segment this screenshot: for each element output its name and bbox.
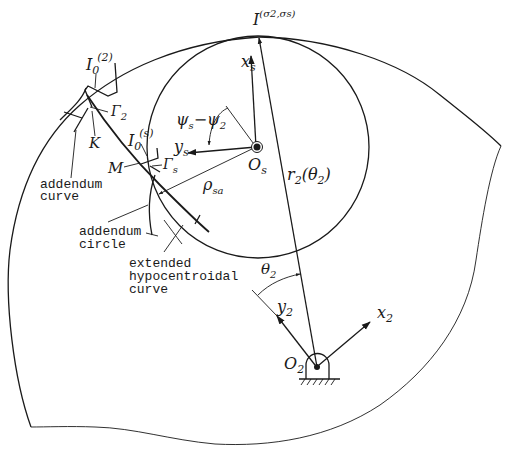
label-r2-theta2: r2(θ2) — [287, 165, 331, 187]
label-theta2: θ2 — [261, 260, 276, 280]
label-x2: x2 — [377, 303, 393, 325]
leader-addendum-circle — [108, 205, 148, 222]
label-psi-difference: ψs−ψ2 — [176, 110, 226, 131]
O2-ground-support — [299, 354, 340, 385]
annotation-addendum-circle: addendum circle — [79, 224, 149, 252]
label-instant-center: I(σ2,σs) — [252, 8, 296, 29]
leader-M — [124, 163, 140, 167]
label-M: M — [107, 159, 124, 177]
label-y2: y2 — [276, 297, 293, 319]
addendum-circle-arc — [149, 175, 155, 235]
label-gamma-s: Γs — [162, 156, 178, 175]
outer-right-edge — [215, 146, 501, 445]
gammas-tick — [150, 166, 160, 172]
leader-gammas — [152, 165, 162, 166]
label-i0-2: I0(2) — [85, 51, 113, 77]
annotation-addendum-curve: addendum curve — [40, 177, 110, 204]
label-i0-s: I0(s) — [127, 127, 154, 153]
label-xs: xs — [241, 52, 256, 74]
psi-reference-line — [226, 106, 256, 147]
label-Os: Os — [248, 155, 267, 177]
label-ys: ys — [173, 137, 189, 159]
label-gamma-2: Γ2 — [110, 103, 127, 122]
addendum-circle-arc-2 — [164, 220, 182, 244]
leader-K — [92, 111, 95, 136]
label-rho-sa: ρsa — [202, 175, 224, 196]
leader-addendum-curve — [71, 130, 76, 178]
leader-i0s — [141, 144, 147, 156]
outer-top-right-arc — [259, 37, 501, 146]
diagram-canvas: I(σ2,σs) I0(2) Γ2 K I0(s) M Γs xs ψs−ψ2 … — [0, 0, 511, 452]
addendum-curve-tick-2 — [74, 108, 88, 132]
label-O2: O2 — [284, 354, 304, 376]
leader-hypocentroidal — [164, 225, 183, 252]
annotation-hypocentroidal-curve: extended hypocentroidal curve — [129, 256, 246, 297]
label-K: K — [88, 134, 101, 152]
theta2-reference-line — [252, 290, 277, 316]
Os-pivot-dot — [254, 144, 261, 151]
gammas-bracket — [141, 148, 158, 164]
outer-bottom-edge — [31, 427, 215, 444]
